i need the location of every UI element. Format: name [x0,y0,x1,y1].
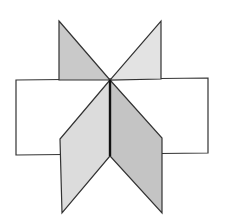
upper-right-triangle [110,21,161,80]
upper-left-triangle [59,21,110,80]
intersecting-planes-figure [0,0,228,219]
